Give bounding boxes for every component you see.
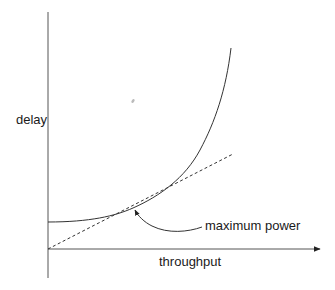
y-axis-label: delay <box>16 113 47 126</box>
annotation-arrow <box>135 210 202 231</box>
scan-artifact <box>131 98 136 103</box>
delay-curve <box>48 48 231 222</box>
delay-throughput-diagram <box>0 0 335 290</box>
maximum-power-label: maximum power <box>205 219 300 232</box>
tangent-line <box>48 154 233 249</box>
x-axis-label: throughput <box>159 255 221 268</box>
